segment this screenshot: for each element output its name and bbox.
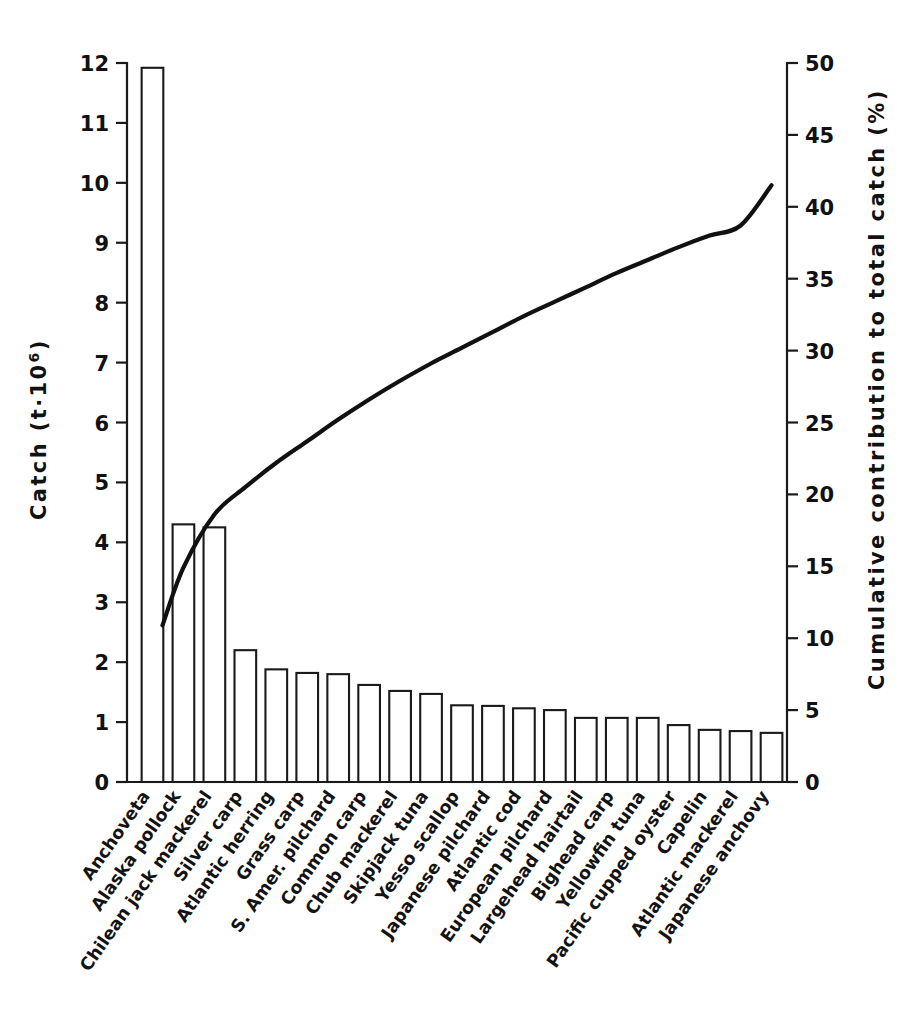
bar [482,706,504,782]
bar [389,691,411,782]
bar [668,725,690,782]
bar-series [142,68,783,782]
cumulative-curve [163,185,772,625]
left-tick-label: 3 [94,591,109,615]
bar [699,730,721,782]
right-tick-label: 25 [805,412,834,436]
bar [451,705,473,782]
bar [761,733,783,782]
right-axis-title-text: Cumulative contribution to total catch (… [865,88,889,690]
bar [420,694,442,782]
chart-canvas: Catch (t·106) Cumulative contribution to… [0,0,920,1019]
bar [204,527,226,782]
left-tick-label: 0 [94,771,109,795]
bar [637,718,659,782]
left-tick-label: 5 [94,471,109,495]
bar [575,718,597,782]
bar [513,708,535,782]
category-labels: AnchovetaAlaska pollockChilean jack mack… [76,786,773,974]
left-tick-label: 1 [94,711,109,735]
right-axis-title: Cumulative contribution to total catch (… [865,88,889,690]
right-tick-label: 0 [805,771,820,795]
right-tick-label: 40 [805,196,834,220]
right-tick-label: 10 [805,627,834,651]
bar [296,673,318,782]
left-axis-title-exponent: 6 [26,350,42,362]
bar [142,68,164,782]
left-tick-label: 8 [94,292,109,316]
bar [544,710,566,782]
right-tick-label: 15 [805,555,834,579]
left-tick-label: 4 [94,531,109,555]
right-axis-ticks: 05101520253035404550 [787,52,834,795]
right-tick-label: 30 [805,340,834,364]
bar [730,731,752,782]
left-axis-ticks: 0123456789101112 [80,52,127,795]
left-axis-title: Catch (t·106) [26,338,51,520]
left-tick-label: 7 [94,352,109,376]
left-tick-label: 12 [80,52,109,76]
left-tick-label: 2 [94,651,109,675]
bar [327,674,349,782]
right-tick-label: 35 [805,268,834,292]
right-tick-label: 20 [805,483,834,507]
bar [265,669,287,782]
left-axis-title-text: Catch (t·10 [27,362,51,520]
right-tick-label: 5 [805,699,820,723]
bar [235,650,257,782]
left-tick-label: 10 [80,172,109,196]
left-tick-label: 9 [94,232,109,256]
right-tick-label: 50 [805,52,834,76]
bar [606,718,628,782]
left-tick-label: 11 [80,112,109,136]
left-axis-title-paren: ) [27,338,51,350]
bar [358,685,380,782]
right-tick-label: 45 [805,124,834,148]
svg-text:Catch (t·106): Catch (t·106) [26,338,51,520]
left-tick-label: 6 [94,412,109,436]
fisheries-catch-pareto-chart: Catch (t·106) Cumulative contribution to… [0,0,920,1019]
